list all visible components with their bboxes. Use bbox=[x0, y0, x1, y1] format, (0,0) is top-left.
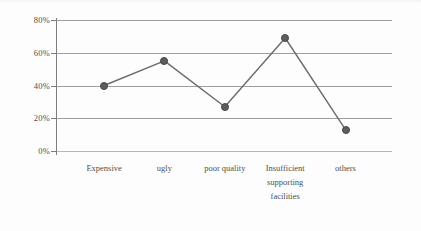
line-chart-figure: 80% 60% 40% 20% 0% Expensive ugly poor q bbox=[0, 0, 421, 231]
x-label-poor-quality: poor quality bbox=[204, 161, 245, 175]
x-label-ugly-line-1: ugly bbox=[157, 161, 172, 175]
x-axis-labels: Expensive ugly poor quality Insufficient… bbox=[0, 161, 421, 231]
x-label-expensive: Expensive bbox=[86, 161, 121, 175]
data-point-others bbox=[342, 126, 350, 134]
x-label-ugly: ugly bbox=[157, 161, 172, 175]
x-label-insufficient-line-1: Insufficient bbox=[266, 161, 305, 175]
x-label-expensive-line-1: Expensive bbox=[86, 161, 121, 175]
x-label-insufficient-line-2: supporting bbox=[266, 175, 305, 189]
data-point-poor-quality bbox=[221, 103, 229, 111]
x-label-others: others bbox=[335, 161, 356, 175]
x-label-poor-quality-line-1: poor quality bbox=[204, 161, 245, 175]
data-point-expensive bbox=[100, 82, 108, 90]
x-label-others-line-1: others bbox=[335, 161, 356, 175]
x-label-insufficient-supporting-facilities: Insufficient supporting facilities bbox=[266, 161, 305, 203]
x-label-insufficient-line-3: facilities bbox=[266, 189, 305, 203]
